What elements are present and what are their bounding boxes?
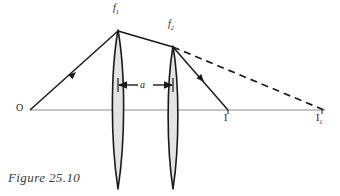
lens-2-label: f2: [168, 19, 174, 31]
intermediate-ray: [118, 31, 173, 47]
lens-1: [112, 30, 123, 189]
lens-separation-label: a: [140, 80, 145, 90]
lens-2: [168, 46, 178, 189]
object-point-label: O: [16, 103, 23, 113]
virtual-ray-to-image1: [173, 47, 324, 110]
image-point-label: I: [224, 113, 227, 123]
figure-caption: Figure 25.10: [8, 170, 80, 186]
incident-ray: [30, 31, 118, 110]
figure-25-10: f1 f2 O I I1 a Figure 25.10: [0, 0, 340, 196]
lens-1-label: f1: [113, 3, 119, 15]
intermediate-image-point-label: I1: [316, 113, 322, 125]
